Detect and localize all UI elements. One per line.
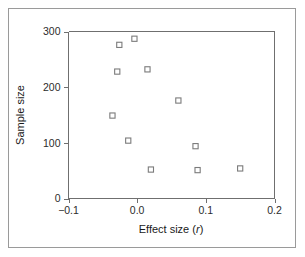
axes	[69, 32, 275, 199]
x-axis-title: Effect size (r)	[139, 223, 204, 235]
y-tick-label-1: 100	[43, 137, 61, 149]
x-tick-label-0: −0.1	[58, 204, 79, 216]
x-tick-labels: −0.10.00.10.2	[58, 204, 282, 216]
data-point	[195, 168, 200, 173]
data-point	[145, 67, 150, 72]
data-point	[117, 42, 122, 47]
plot-canvas: −0.10.00.10.2 0100200300 Effect size (r)…	[0, 0, 305, 257]
data-point	[115, 69, 120, 74]
y-tick-label-2: 200	[43, 81, 61, 93]
y-tick-labels: 0100200300	[43, 25, 61, 204]
x-tick-label-3: 0.2	[267, 204, 282, 216]
y-tick-label-3: 300	[43, 25, 61, 37]
data-point	[126, 138, 131, 143]
scatter-plot-figure: −0.10.00.10.2 0100200300 Effect size (r)…	[0, 0, 305, 257]
data-point	[148, 167, 153, 172]
data-point	[132, 36, 137, 41]
x-tick-label-1: 0.0	[130, 204, 145, 216]
data-point	[110, 113, 115, 118]
y-axis-title: Sample size	[14, 85, 26, 145]
y-tick-label-0: 0	[55, 192, 61, 204]
data-point	[238, 166, 243, 171]
data-points	[110, 36, 243, 173]
data-point	[176, 98, 181, 103]
tick-marks	[64, 33, 276, 204]
x-tick-label-2: 0.1	[199, 204, 214, 216]
data-point	[193, 144, 198, 149]
